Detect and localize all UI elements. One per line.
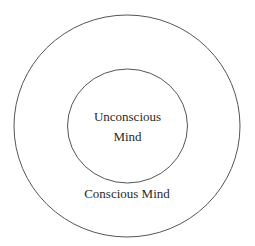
outer-circle: [14, 15, 240, 237]
inner-label-line2: Mind: [67, 129, 188, 145]
inner-circle: [68, 69, 188, 183]
outer-label: Conscious Mind: [47, 186, 207, 202]
inner-label-line1: Unconscious: [67, 109, 188, 125]
